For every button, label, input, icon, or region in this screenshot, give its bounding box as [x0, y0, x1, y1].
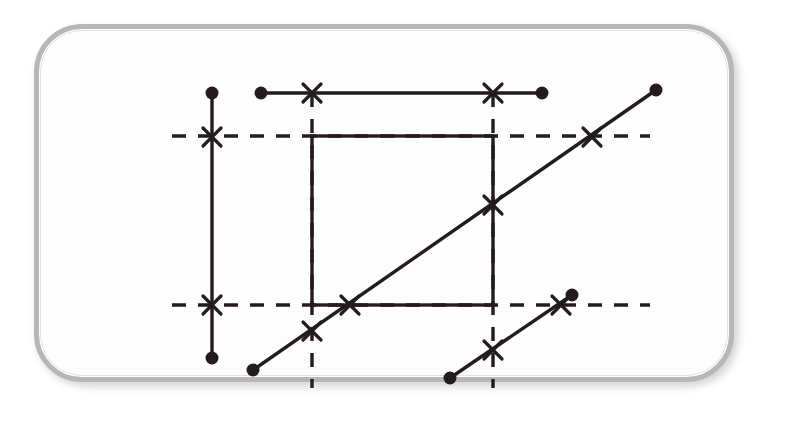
dot-short-diagonal-end	[566, 289, 579, 302]
dot-long-diagonal-start	[247, 364, 260, 377]
dot-short-diagonal-start	[444, 372, 457, 385]
endpoint-dots-group	[206, 84, 663, 385]
dot-vertical-bottom	[206, 352, 219, 365]
dot-horizontal-left	[255, 87, 268, 100]
dot-vertical-top	[206, 87, 219, 100]
geometry-figure	[0, 0, 806, 437]
diagonal-segment-short	[450, 295, 572, 378]
dot-horizontal-right	[536, 87, 549, 100]
diagram-canvas	[0, 0, 806, 437]
dot-long-diagonal-end	[650, 84, 663, 97]
